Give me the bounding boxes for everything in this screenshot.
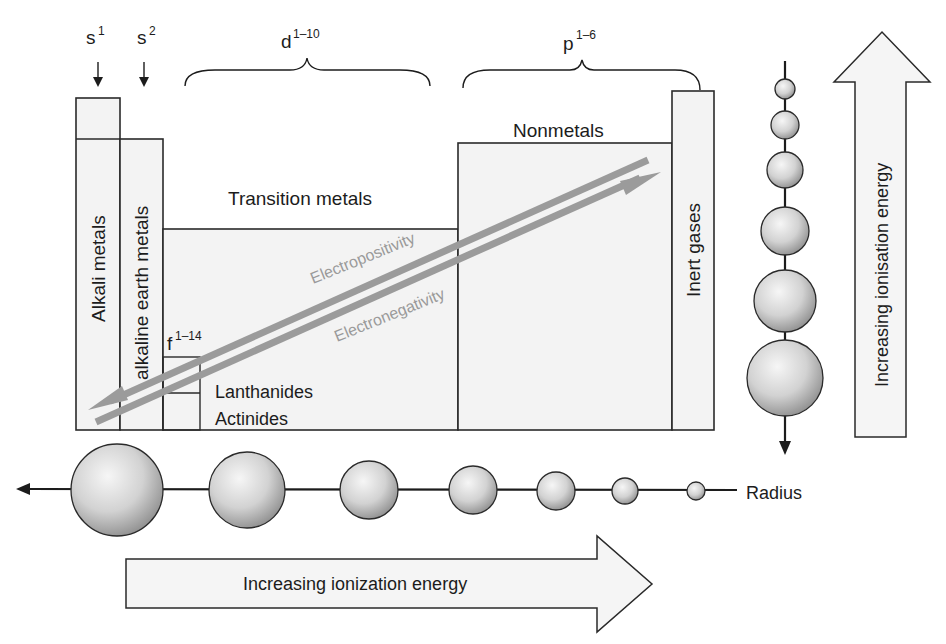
atom-sphere (775, 79, 795, 99)
arrow-left-icon (16, 483, 30, 495)
label-transition-metals: Transition metals (228, 188, 372, 209)
atom-sphere (687, 482, 705, 500)
label-actinides: Actinides (215, 409, 288, 429)
block-label-s2: s 2 (137, 24, 156, 87)
svg-text:2: 2 (149, 24, 156, 38)
horizontal-radius-axis: Radius (16, 444, 802, 536)
atom-sphere (761, 207, 809, 255)
atom-sphere (754, 270, 816, 332)
label-alkaline-earth: alkaline earth metals (131, 206, 152, 380)
atom-sphere (340, 461, 398, 519)
brace-icon (185, 58, 430, 86)
svg-text:1–6: 1–6 (576, 28, 596, 42)
nonmetals-box (458, 143, 672, 430)
label-lanthanides: Lanthanides (215, 382, 313, 402)
svg-text:s: s (86, 27, 96, 48)
block-label-s1: s 1 (86, 24, 105, 87)
atom-sphere (209, 452, 285, 528)
horizontal-ionization-arrow: Increasing ionization energy (126, 536, 652, 632)
svg-text:s: s (137, 27, 147, 48)
svg-text:1–10: 1–10 (293, 27, 320, 41)
brace-icon (463, 60, 700, 90)
label-increasing-ionization: Increasing ionization energy (243, 574, 467, 594)
label-increasing-ionisation: Increasing ionisation energy (872, 163, 892, 387)
vertical-radius-axis (747, 61, 823, 455)
label-radius: Radius (746, 483, 802, 503)
arrowhead-icon (139, 77, 149, 87)
atom-sphere (771, 111, 799, 139)
atom-sphere (71, 444, 163, 536)
vertical-ionisation-arrow: Increasing ionisation energy (834, 32, 930, 437)
label-nonmetals: Nonmetals (513, 120, 604, 141)
label-alkali-metals: Alkali metals (88, 215, 109, 322)
block-label-p: p 1–6 (463, 28, 700, 90)
arrowhead-icon (93, 77, 103, 87)
atom-sphere (767, 152, 803, 188)
periodic-trends-diagram: s 1 s 2 d 1–10 p 1–6 Alkali metals alkal… (0, 0, 946, 644)
svg-text:1: 1 (98, 24, 105, 38)
atom-sphere (537, 472, 575, 510)
svg-text:1–14: 1–14 (175, 329, 202, 343)
svg-text:f: f (167, 333, 173, 354)
label-inert-gases: Inert gases (683, 203, 704, 297)
atom-sphere (747, 340, 823, 416)
atom-sphere (449, 466, 497, 514)
svg-text:d: d (281, 31, 292, 52)
atom-sphere (612, 478, 638, 504)
arrow-down-icon (779, 441, 791, 455)
block-label-d: d 1–10 (185, 27, 430, 86)
svg-text:p: p (563, 33, 574, 54)
